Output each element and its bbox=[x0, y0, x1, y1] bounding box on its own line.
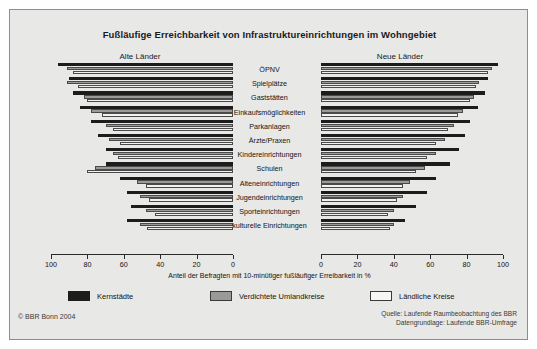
category-label: Gaststätten bbox=[192, 93, 347, 102]
legend-item-verdichtete: Verdichtete Umlandkreise bbox=[210, 291, 324, 301]
axis-tick bbox=[87, 255, 88, 259]
legend-label: Verdichtete Umlandkreise bbox=[239, 292, 324, 301]
bar-row: Sporteinrichtungen bbox=[10, 204, 529, 218]
legend-swatch-laendliche bbox=[370, 291, 392, 301]
axis-tick-label: 0 bbox=[309, 260, 333, 269]
bar-row: Parkanlagen bbox=[10, 119, 529, 133]
legend-label: Kernstädte bbox=[97, 292, 133, 301]
axis-tick-label: 40 bbox=[382, 260, 406, 269]
axis-tick bbox=[124, 255, 125, 259]
legend-swatch-verdichtete bbox=[210, 291, 232, 301]
legend-item-laendliche: Ländliche Kreise bbox=[370, 291, 454, 301]
category-label: Sporteinrichtungen bbox=[192, 206, 347, 215]
category-label: Ärzte/Praxen bbox=[192, 136, 347, 145]
axis-tick-label: 40 bbox=[148, 260, 172, 269]
axis-tick-label: 20 bbox=[345, 260, 369, 269]
bar-row: Einkaufsmöglichkeiten bbox=[10, 105, 529, 119]
bar-k bbox=[321, 63, 498, 66]
bar-row: Spielplätze bbox=[10, 76, 529, 90]
bar-row: Kindereinrichtungen bbox=[10, 147, 529, 161]
panel-title-neue-laender: Neue Länder bbox=[300, 52, 500, 61]
category-label: ÖPNV bbox=[192, 65, 347, 74]
legend-label: Ländliche Kreise bbox=[399, 292, 454, 301]
axis-tick bbox=[197, 255, 198, 259]
axis-tick bbox=[503, 255, 504, 259]
axis-tick bbox=[321, 255, 322, 259]
category-label: kulturelle Einrichtungen bbox=[192, 221, 347, 230]
axis-tick bbox=[51, 255, 52, 259]
chart-title: Fußläufige Erreichbarkeit von Infrastruk… bbox=[10, 29, 529, 40]
panel-title-alte-laender: Alte Länder bbox=[40, 52, 240, 61]
category-label: Schulen bbox=[192, 164, 347, 173]
axis-tick-label: 60 bbox=[418, 260, 442, 269]
bar-row: Alteneinrichtungen bbox=[10, 176, 529, 190]
axis-tick bbox=[430, 255, 431, 259]
source-note: Quelle: Laufende Raumbeobachtung des BBR… bbox=[381, 309, 517, 327]
axis-tick bbox=[467, 255, 468, 259]
legend-swatch-kernstaedte bbox=[68, 291, 90, 301]
axis-tick bbox=[357, 255, 358, 259]
bar-row: Jugendeinrichtungen bbox=[10, 190, 529, 204]
bar-rows: ÖPNVSpielplätzeGaststättenEinkaufsmöglic… bbox=[10, 62, 529, 252]
category-label: Alteneinrichtungen bbox=[192, 178, 347, 187]
x-axis-title: Anteil der Befragten mit 10-minütiger fu… bbox=[10, 272, 529, 279]
bar-row: ÖPNV bbox=[10, 62, 529, 76]
category-label: Kindereinrichtungen bbox=[192, 150, 347, 159]
plot-area: ÖPNVSpielplätzeGaststättenEinkaufsmöglic… bbox=[10, 62, 529, 252]
axis-tick-label: 100 bbox=[491, 260, 515, 269]
chart-figure: Fußläufige Erreichbarkeit von Infrastruk… bbox=[0, 0, 537, 349]
bar-row: Gaststätten bbox=[10, 90, 529, 104]
copyright-note: © BBR Bonn 2004 bbox=[18, 313, 75, 320]
axis-tick bbox=[394, 255, 395, 259]
figure-frame: Fußläufige Erreichbarkeit von Infrastruk… bbox=[9, 9, 528, 340]
axis-tick-label: 60 bbox=[112, 260, 136, 269]
axis-tick-label: 100 bbox=[39, 260, 63, 269]
source-line-2: Datengrundlage: Laufende BBR-Umfrage bbox=[381, 318, 517, 327]
axis-tick-label: 20 bbox=[185, 260, 209, 269]
category-label: Spielplätze bbox=[192, 79, 347, 88]
axis-tick-label: 80 bbox=[455, 260, 479, 269]
bar-row: Ärzte/Praxen bbox=[10, 133, 529, 147]
axis-tick bbox=[160, 255, 161, 259]
chart-legend: KernstädteVerdichtete UmlandkreiseLändli… bbox=[10, 291, 529, 307]
category-label: Jugendeinrichtungen bbox=[192, 192, 347, 201]
legend-item-kernstaedte: Kernstädte bbox=[68, 291, 133, 301]
axis-tick-label: 80 bbox=[75, 260, 99, 269]
category-label: Einkaufsmöglichkeiten bbox=[192, 107, 347, 116]
bar-row: kulturelle Einrichtungen bbox=[10, 218, 529, 232]
source-line-1: Quelle: Laufende Raumbeobachtung des BBR bbox=[381, 309, 517, 318]
category-label: Parkanlagen bbox=[192, 121, 347, 130]
axis-tick bbox=[233, 255, 234, 259]
axis-tick-label: 0 bbox=[221, 260, 245, 269]
bar-row: Schulen bbox=[10, 161, 529, 175]
